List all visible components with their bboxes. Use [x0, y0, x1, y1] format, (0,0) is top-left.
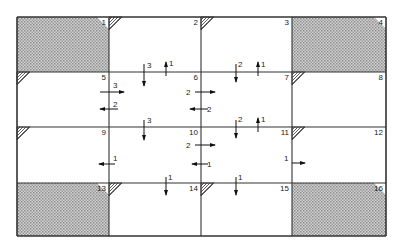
zone-label-12: 12: [374, 128, 383, 137]
flow-value-label: 1: [261, 60, 266, 69]
zone-label-9: 9: [102, 128, 107, 137]
flow-value-label: 1: [113, 154, 118, 163]
zone-label-2: 2: [194, 18, 199, 27]
zone-label-15: 15: [280, 184, 289, 193]
zone-label-10: 10: [189, 128, 198, 137]
flow-value-label: 2: [186, 141, 191, 150]
flow-arrow-down: 2: [236, 60, 243, 82]
zone-label-14: 14: [189, 184, 198, 193]
flow-arrow-down: 3: [144, 61, 152, 86]
hatch-mark-14: [109, 183, 122, 196]
hatch-mark-5: [17, 72, 30, 85]
shaded-zone-4: [292, 17, 386, 72]
flow-value-label: 2: [113, 100, 118, 109]
flow-value-label: 2: [186, 88, 191, 97]
zone-label-4: 4: [379, 18, 384, 27]
flow-value-label: 2: [238, 60, 243, 69]
flow-arrow-left: 1: [192, 160, 212, 169]
zone-label-11: 11: [281, 128, 290, 137]
flow-value-label: 1: [168, 173, 173, 182]
flow-value-label: 2: [238, 115, 243, 124]
flow-value-label: 3: [147, 61, 152, 70]
shaded-zone-13: [17, 183, 109, 236]
flow-arrow-down: 3: [144, 116, 152, 140]
zone-label-1: 1: [102, 18, 107, 27]
zone-label-8: 8: [379, 73, 384, 82]
flow-value-label: 3: [113, 81, 118, 90]
flow-value-label: 3: [147, 116, 152, 125]
flow-value-label: 1: [261, 115, 266, 124]
shaded-zone-1: [17, 17, 109, 72]
shaded-zone-16: [292, 183, 386, 236]
flow-value-label: 2: [207, 105, 212, 114]
zone-label-16: 16: [374, 184, 383, 193]
flow-arrow-up: 1: [258, 115, 266, 132]
zone-label-13: 13: [97, 184, 106, 193]
flow-arrow-right: 1: [284, 154, 305, 163]
zone-label-6: 6: [194, 73, 199, 82]
flow-arrow-right: 3: [100, 81, 124, 92]
zone-flow-diagram: 12345678910111213141516 3121322232121111…: [0, 0, 401, 250]
hatch-mark-8: [292, 72, 305, 85]
hatch-mark-15: [201, 183, 214, 196]
flow-arrow-down: 1: [236, 173, 243, 195]
flow-value-label: 1: [284, 154, 289, 163]
zone-label-3: 3: [285, 18, 290, 27]
zone-label-5: 5: [102, 73, 107, 82]
hatch-mark-12: [292, 127, 305, 140]
flow-arrow-up: 1: [258, 60, 266, 76]
zone-label-7: 7: [285, 73, 290, 82]
flow-value-label: 1: [169, 59, 174, 68]
flow-value-label: 1: [207, 160, 212, 169]
flow-value-label: 1: [238, 173, 243, 182]
hatch-mark-3: [201, 17, 214, 30]
flow-arrow-up: 1: [166, 59, 174, 76]
hatch-mark-2: [109, 17, 122, 30]
flow-arrow-down: 1: [166, 173, 173, 195]
hatch-mark-9: [17, 127, 30, 140]
